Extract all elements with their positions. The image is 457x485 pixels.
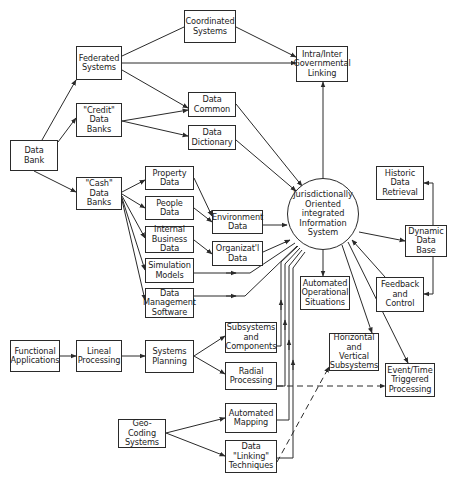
node-functional-applications: Functional Applications xyxy=(10,340,60,372)
node-property-data: Property Data xyxy=(145,166,194,190)
node-intra-inter-linking: Intra/Inter Governmental Linking xyxy=(296,46,348,82)
node-data-linking-techniques: Data "Linking" Techniques xyxy=(225,440,277,473)
node-horizontal-vertical-subsystems: Horizontal and Vertical Subsystems xyxy=(329,333,379,371)
node-subsystems-components: Subsystems and Components xyxy=(225,322,277,353)
node-dynamic-data-base: Dynamic Data Base xyxy=(405,225,447,257)
node-historic-data-retrieval: Historic Data Retrieval xyxy=(376,166,424,200)
node-data-management-software: Data Management Software xyxy=(145,288,194,318)
node-geo-coding-systems: Geo-Coding Systems xyxy=(118,419,166,448)
node-federated-systems: Federated Systems xyxy=(76,46,122,80)
node-people-data: People Data xyxy=(145,196,194,220)
node-organizational-data: Organizat'l Data xyxy=(212,241,263,266)
node-internal-business-data: Internal Business Data xyxy=(145,226,194,253)
node-data-common: Data Common xyxy=(188,92,236,117)
node-data-dictionary: Data Dictionary xyxy=(188,125,236,150)
node-systems-planning: Systems Planning xyxy=(145,340,194,373)
node-cash-data-banks: "Cash" Data Banks xyxy=(76,177,122,210)
diagram-canvas: Data Bank Federated Systems "Credit" Dat… xyxy=(0,0,457,485)
node-environment-data: Environment Data xyxy=(212,210,263,234)
node-radial-processing: Radial Processing xyxy=(225,362,277,390)
node-automated-mapping: Automated Mapping xyxy=(225,403,277,433)
node-simulation-models: Simulation Models xyxy=(145,258,194,283)
node-event-time-triggered: Event/Time Triggered Processing xyxy=(385,363,435,397)
node-jurisdictionally-oriented-system: Jurisdictionally Oriented integrated Inf… xyxy=(287,178,359,250)
node-lineal-processing: Lineal Processing xyxy=(76,340,122,372)
node-feedback-control: Feedback and Control xyxy=(376,277,424,312)
node-data-bank: Data Bank xyxy=(10,140,58,171)
node-credit-data-banks: "Credit" Data Banks xyxy=(76,103,122,137)
node-coordinated-systems: Coordinated Systems xyxy=(184,10,236,43)
node-automated-operational-situations: Automated Operational Situations xyxy=(300,276,350,310)
